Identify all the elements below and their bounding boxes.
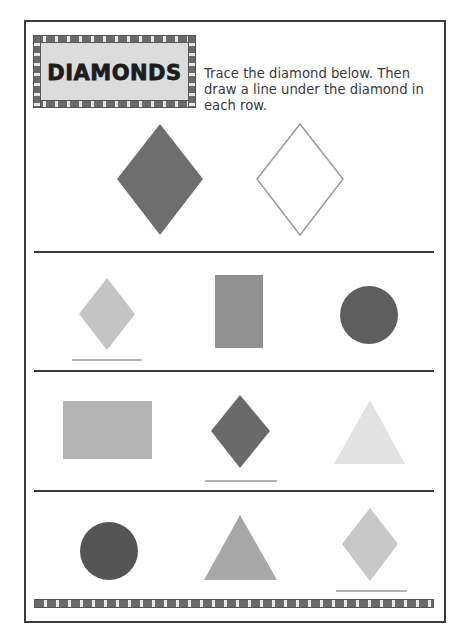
row3-triangle[interactable] bbox=[204, 515, 277, 580]
example-filled-diamond bbox=[117, 124, 203, 235]
shapes-canvas bbox=[0, 0, 469, 644]
example-trace-diamond[interactable] bbox=[257, 124, 343, 235]
row1-circle[interactable] bbox=[340, 286, 398, 344]
row1-rectangle[interactable] bbox=[215, 275, 263, 348]
decorative-border-footer bbox=[34, 599, 434, 608]
row2-diamond[interactable] bbox=[211, 395, 270, 468]
row1-diamond[interactable] bbox=[79, 278, 135, 350]
row3-diamond[interactable] bbox=[342, 508, 398, 581]
row3-circle[interactable] bbox=[80, 522, 138, 580]
row2-rectangle[interactable] bbox=[63, 401, 152, 459]
row2-triangle[interactable] bbox=[334, 400, 405, 464]
